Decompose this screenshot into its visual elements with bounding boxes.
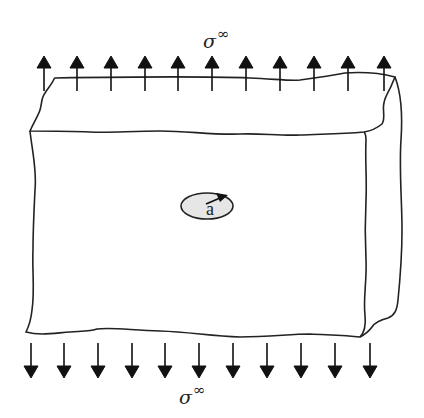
arrow-up-icon <box>70 56 84 91</box>
arrow-down-icon <box>226 343 240 378</box>
arrow-up-icon <box>104 56 118 91</box>
top-stress-arrows <box>37 56 391 91</box>
arrow-down-icon <box>192 343 206 378</box>
arrow-down-icon <box>363 343 377 378</box>
arrow-up-icon <box>273 56 287 91</box>
arrow-up-icon <box>37 56 51 91</box>
arrow-down-icon <box>24 343 38 378</box>
sigma-symbol: σ <box>179 386 192 408</box>
plate-front-face <box>26 131 366 337</box>
arrow-up-icon <box>205 56 219 91</box>
fracture-diagram: σ∞ σ∞ a <box>0 0 424 418</box>
infinity-superscript: ∞ <box>193 381 206 399</box>
arrow-up-icon <box>138 56 152 91</box>
arrow-down-icon <box>91 343 105 378</box>
arrow-down-icon <box>158 343 172 378</box>
arrow-down-icon <box>294 343 308 378</box>
arrow-down-icon <box>57 343 71 378</box>
crack-size-label: a <box>206 199 214 220</box>
arrow-up-icon <box>307 56 321 91</box>
arrow-down-icon <box>260 343 274 378</box>
bottom-stress-label: σ∞ <box>179 386 205 408</box>
top-stress-label: σ∞ <box>203 30 229 52</box>
arrow-up-icon <box>239 56 253 91</box>
sigma-symbol: σ <box>203 30 216 52</box>
bottom-stress-arrows <box>24 343 377 378</box>
infinity-superscript: ∞ <box>217 25 230 43</box>
arrow-down-icon <box>328 343 342 378</box>
arrow-up-icon <box>171 56 185 91</box>
arrow-down-icon <box>125 343 139 378</box>
